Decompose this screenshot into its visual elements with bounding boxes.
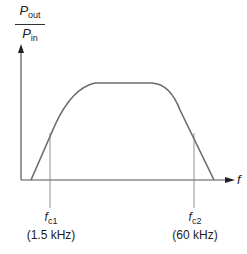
y-label-denominator-sub: in	[31, 33, 38, 43]
y-axis-label: Pout Pin	[15, 3, 45, 46]
fraction-bar	[15, 24, 45, 25]
fc1-value: (1.5 kHz)	[25, 228, 77, 242]
y-label-numerator: P	[19, 3, 28, 18]
x-axis-arrow-icon	[225, 177, 235, 183]
cutoff-label-fc1: fc1 (1.5 kHz)	[25, 210, 77, 242]
response-curve	[31, 83, 214, 180]
x-axis-label: f	[237, 172, 241, 187]
y-label-denominator: P	[22, 26, 31, 41]
y-label-numerator-sub: out	[28, 10, 41, 20]
fc1-subscript: c1	[48, 216, 58, 226]
fc2-value: (60 kHz)	[172, 228, 218, 242]
cutoff-label-fc2: fc2 (60 kHz)	[172, 210, 218, 242]
fc2-subscript: c2	[192, 216, 202, 226]
